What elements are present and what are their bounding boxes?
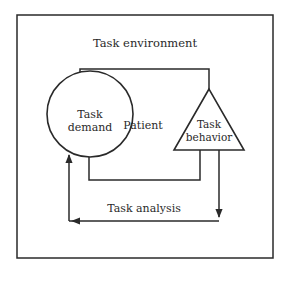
task-demand-label-line2: demand (68, 121, 113, 134)
task-behavior-label-line1: Task (197, 118, 222, 130)
task-analysis-diagram: Task environment Task demand Patient Tas… (0, 0, 288, 290)
task-environment-label: Task environment (93, 36, 197, 50)
patient-label: Patient (123, 119, 163, 132)
task-analysis-label: Task analysis (107, 202, 181, 215)
task-demand-label-line1: Task (77, 108, 103, 121)
task-behavior-label-line2: behavior (186, 131, 234, 143)
